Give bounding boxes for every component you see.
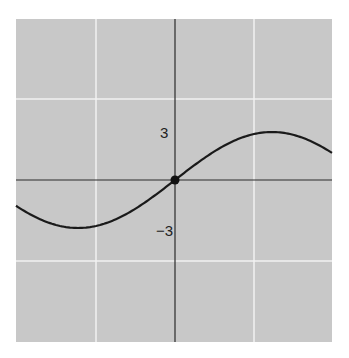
plot-area: [0, 0, 349, 358]
y-tick-label-negative: −3: [156, 222, 173, 239]
y-tick-label-positive: 3: [160, 124, 168, 141]
origin-point: [171, 176, 180, 185]
